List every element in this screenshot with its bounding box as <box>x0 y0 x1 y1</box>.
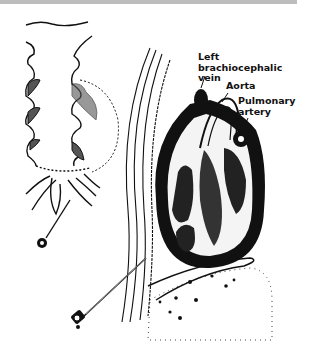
label-line-1: Left <box>198 52 282 63</box>
label-line-1: Pulmonary <box>238 96 295 107</box>
pericardiocentesis-needle <box>70 256 148 329</box>
left-brachiocephalic-vein-label: Left brachiocephalic vein <box>198 52 282 84</box>
label-line-2: artery <box>238 107 295 118</box>
pulmonary-artery-lumen <box>238 136 244 142</box>
left-brachiocephalic-vein-shape <box>194 89 208 111</box>
diaphragm-liver <box>148 258 272 340</box>
pulmonary-artery-label: Pulmonary artery <box>238 96 295 117</box>
rib-shading <box>28 80 97 161</box>
rib-cage-inset <box>26 22 119 214</box>
heart <box>155 100 265 268</box>
aorta-label: Aorta <box>226 81 256 92</box>
